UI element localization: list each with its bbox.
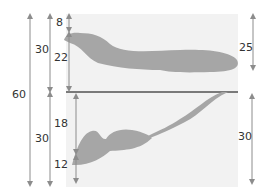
- dim-label-25: 25: [239, 42, 253, 54]
- dim-label-30-top: 30: [35, 44, 49, 56]
- dim-label-30-right: 30: [238, 131, 252, 143]
- dim-label-60: 60: [12, 89, 26, 101]
- dim-label-22: 22: [54, 52, 68, 64]
- dim-label-12: 12: [54, 159, 68, 171]
- dim-label-18: 18: [54, 118, 68, 130]
- dimension-diagram: 60 30 30 8 22 18 12 25 30: [0, 0, 269, 195]
- dim-label-8: 8: [56, 17, 63, 29]
- dim-label-30-bottom: 30: [35, 133, 49, 145]
